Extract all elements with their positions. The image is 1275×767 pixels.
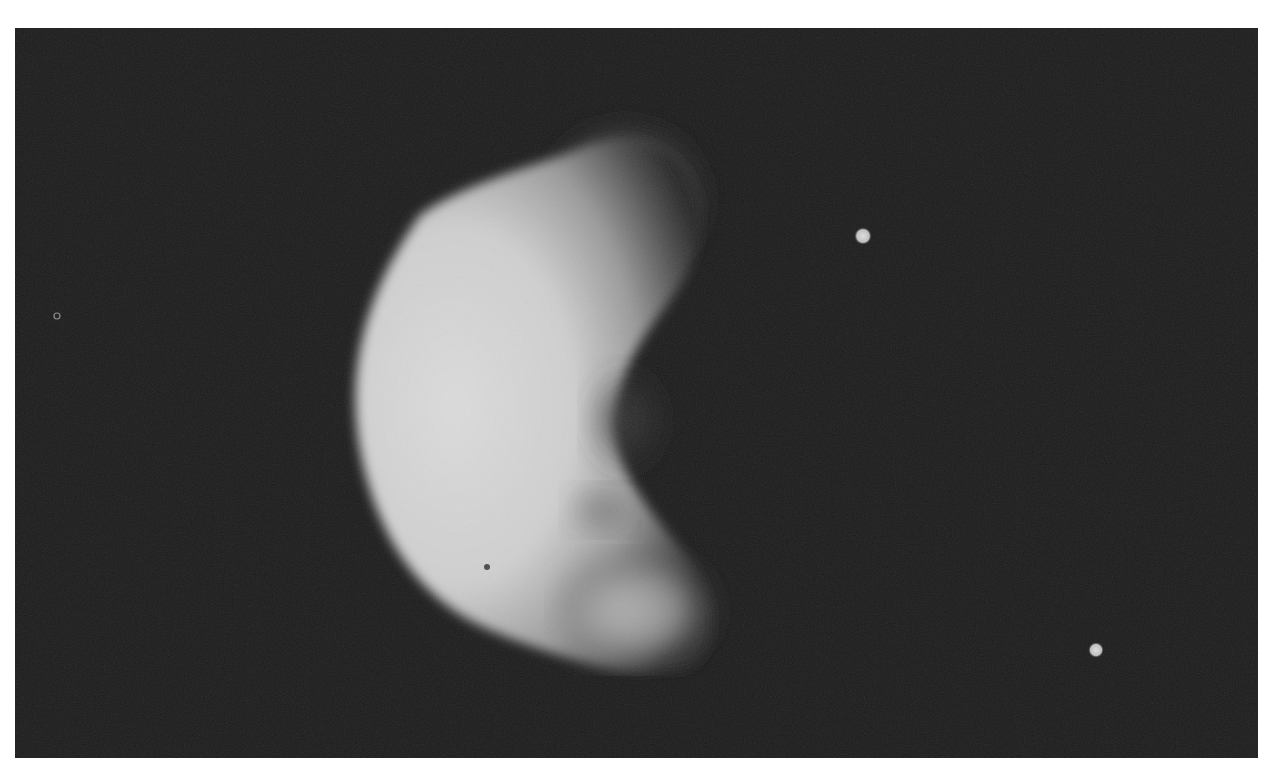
photograph-frame bbox=[15, 28, 1258, 758]
moon-photograph bbox=[15, 28, 1258, 758]
film-grain bbox=[15, 28, 1258, 758]
